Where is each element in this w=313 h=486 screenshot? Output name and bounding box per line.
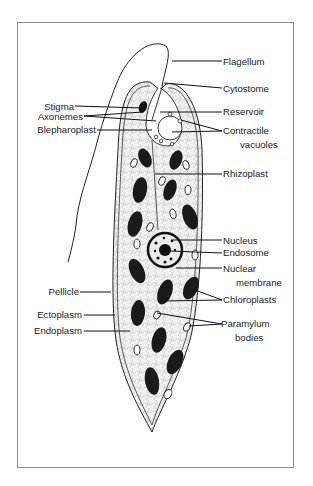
nucleus-shape: [148, 233, 182, 267]
label-axonemes: Axonemes: [38, 111, 84, 122]
label-membrane: membrane: [236, 277, 282, 288]
label-flagellum: Flagellum: [223, 56, 265, 67]
label-nucleus: Nucleus: [223, 235, 258, 246]
label-vacuoles: vacuoles: [240, 139, 278, 150]
label-blepharoplast: Blepharoplast: [37, 124, 96, 135]
label-pellicle: Pellicle: [49, 286, 79, 297]
label-nuclear: Nuclear: [223, 263, 257, 274]
cell-body: [113, 82, 203, 432]
label-chloroplasts: Chloroplasts: [223, 294, 277, 305]
label-paramylum: Paramylum: [221, 318, 270, 329]
label-rhizoplast: Rhizoplast: [223, 168, 268, 179]
label-cytostome: Cytostome: [223, 83, 269, 94]
label-contractile: Contractile: [223, 125, 269, 136]
label-endoplasm: Endoplasm: [34, 325, 82, 336]
label-ectoplasm: Ectoplasm: [37, 309, 82, 320]
euglena-diagram: Flagellum Cytostome Reservoir Contractil…: [0, 0, 313, 486]
label-endosome: Endosome: [223, 247, 269, 258]
label-bodies: bodies: [235, 332, 263, 343]
label-reservoir: Reservoir: [223, 106, 265, 117]
